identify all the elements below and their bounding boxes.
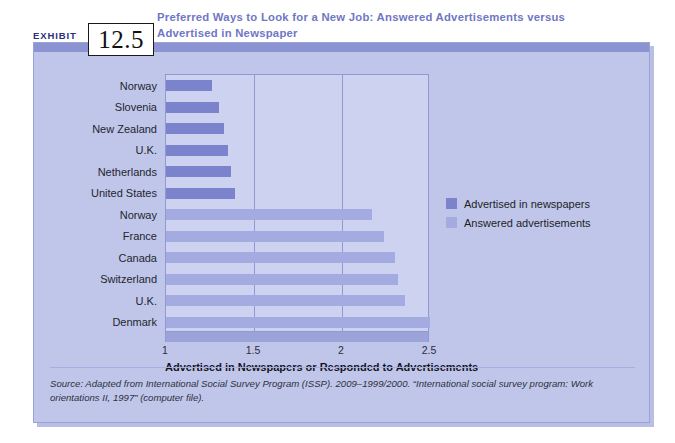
legend-item: Answered advertisements: [446, 213, 591, 232]
exhibit-label: EXHIBIT: [33, 30, 77, 41]
plot-area: NorwaySloveniaNew ZealandU.K.Netherlands…: [165, 74, 429, 332]
exhibit-panel: NorwaySloveniaNew ZealandU.K.Netherlands…: [33, 42, 650, 423]
x-tick-label: 1.5: [246, 344, 261, 356]
x-tick-label: 2: [338, 344, 344, 356]
exhibit-number-box: 12.5: [88, 23, 154, 56]
category-label: Switzerland: [100, 273, 166, 285]
bar-row: Slovenia: [166, 97, 430, 119]
legend-item: Advertised in newspapers: [446, 194, 591, 213]
category-label: Norway: [120, 209, 166, 221]
category-label: Norway: [120, 80, 166, 92]
bar: [166, 80, 212, 91]
bar-row: United States: [166, 183, 430, 205]
category-label: New Zealand: [92, 123, 166, 135]
bar: [166, 231, 384, 242]
category-label: Netherlands: [98, 166, 166, 178]
category-label: U.K.: [136, 295, 166, 307]
bar-row: New Zealand: [166, 118, 430, 140]
bar: [166, 295, 405, 306]
bar-row: Switzerland: [166, 269, 430, 291]
bar: [166, 274, 398, 285]
bar: [166, 252, 395, 263]
bar: [166, 145, 228, 156]
bar-row: U.K.: [166, 290, 430, 312]
x-axis-strip: [165, 332, 429, 342]
bar-row: Canada: [166, 247, 430, 269]
bar: [166, 123, 224, 134]
bar: [166, 317, 430, 328]
legend-label: Answered advertisements: [464, 217, 591, 229]
category-label: United States: [91, 187, 166, 199]
bar: [166, 166, 231, 177]
legend-swatch-icon: [446, 198, 457, 209]
bar-row: Denmark: [166, 312, 430, 334]
chart-legend: Advertised in newspapersAnswered adverti…: [446, 194, 591, 232]
bar-row: Netherlands: [166, 161, 430, 183]
x-tick-label: 1: [162, 344, 168, 356]
source-note: Source: Adapted from International Socia…: [50, 377, 636, 404]
bar-row: Norway: [166, 75, 430, 97]
bar: [166, 209, 372, 220]
bar: [166, 188, 235, 199]
category-label: Slovenia: [115, 101, 166, 113]
legend-swatch-icon: [446, 217, 457, 228]
bar-row: France: [166, 226, 430, 248]
page-title: Preferred Ways to Look for a New Job: An…: [157, 10, 627, 41]
source-divider: [50, 367, 635, 368]
bar-row: Norway: [166, 204, 430, 226]
category-label: Denmark: [112, 316, 166, 328]
legend-label: Advertised in newspapers: [464, 198, 590, 210]
category-label: Canada: [118, 252, 166, 264]
exhibit-number: 12.5: [98, 27, 144, 52]
x-tick-label: 2.5: [422, 344, 437, 356]
category-label: U.K.: [136, 144, 166, 156]
bar: [166, 102, 219, 113]
bar-row: U.K.: [166, 140, 430, 162]
category-label: France: [123, 230, 166, 242]
